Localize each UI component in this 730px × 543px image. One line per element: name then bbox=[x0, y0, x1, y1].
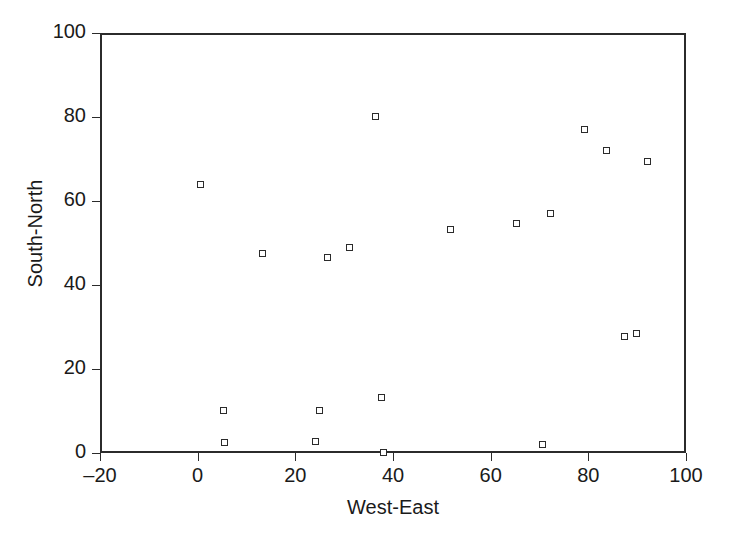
x-tick-label: 0 bbox=[163, 464, 233, 487]
data-point bbox=[621, 333, 628, 340]
x-tick bbox=[686, 453, 687, 461]
y-tick bbox=[92, 201, 100, 202]
x-tick bbox=[588, 453, 589, 461]
data-point bbox=[513, 220, 520, 227]
data-point bbox=[316, 407, 323, 414]
x-tick-label: 40 bbox=[358, 464, 428, 487]
x-tick-label: –20 bbox=[65, 464, 135, 487]
y-tick-label: 80 bbox=[10, 104, 86, 127]
data-points-layer bbox=[102, 35, 684, 451]
data-point bbox=[547, 210, 554, 217]
data-point bbox=[372, 113, 379, 120]
y-tick bbox=[92, 453, 100, 454]
y-tick bbox=[92, 117, 100, 118]
x-tick-label: 80 bbox=[553, 464, 623, 487]
plot-area bbox=[100, 33, 686, 453]
data-point bbox=[539, 441, 546, 448]
data-point bbox=[259, 250, 266, 257]
x-tick-label: 20 bbox=[260, 464, 330, 487]
data-point bbox=[633, 330, 640, 337]
data-point bbox=[581, 126, 588, 133]
x-axis-title: West-East bbox=[100, 496, 686, 519]
data-point bbox=[447, 226, 454, 233]
data-point bbox=[346, 244, 353, 251]
y-tick bbox=[92, 369, 100, 370]
data-point bbox=[603, 147, 610, 154]
x-tick bbox=[491, 453, 492, 461]
y-tick-label: 0 bbox=[10, 440, 86, 463]
x-tick-label: 100 bbox=[651, 464, 721, 487]
y-tick-label: 20 bbox=[10, 356, 86, 379]
y-tick-label: 100 bbox=[10, 20, 86, 43]
y-tick bbox=[92, 285, 100, 286]
data-point bbox=[378, 394, 385, 401]
y-tick bbox=[92, 33, 100, 34]
data-point bbox=[197, 181, 204, 188]
data-point bbox=[380, 449, 387, 456]
y-tick-label: 40 bbox=[10, 272, 86, 295]
data-point bbox=[221, 439, 228, 446]
x-tick bbox=[393, 453, 394, 461]
data-point bbox=[644, 158, 651, 165]
x-tick bbox=[100, 453, 101, 461]
data-point bbox=[312, 438, 319, 445]
x-tick-label: 60 bbox=[456, 464, 526, 487]
x-tick bbox=[198, 453, 199, 461]
x-tick bbox=[295, 453, 296, 461]
scatter-chart: –20020406080100 020406080100 West-East S… bbox=[0, 0, 730, 543]
y-axis-title: South-North bbox=[24, 134, 47, 334]
data-point bbox=[220, 407, 227, 414]
data-point bbox=[324, 254, 331, 261]
y-tick-label: 60 bbox=[10, 188, 86, 211]
